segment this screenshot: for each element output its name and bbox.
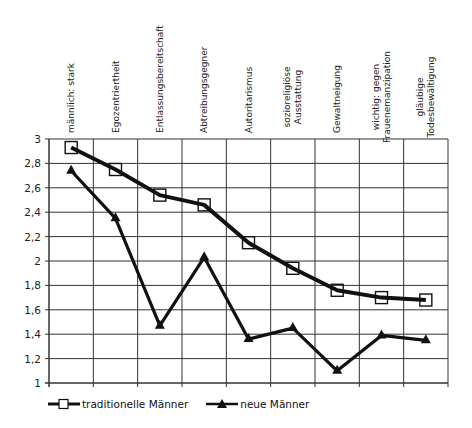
y-tick-label: 2 <box>34 255 41 267</box>
category-label: Frauenemanzipation <box>382 51 392 143</box>
category-label: Ausstattung <box>293 70 303 124</box>
category-label: Egozentriertheit <box>111 60 121 133</box>
category-label: Todesbewältigung <box>426 57 436 139</box>
y-tick-label: 1,2 <box>24 353 41 365</box>
square-marker-icon <box>48 398 80 410</box>
y-tick-label: 2,6 <box>24 182 41 194</box>
data-series <box>65 142 432 374</box>
category-label: Abtreibungsgegner <box>199 46 209 133</box>
y-tick-label: 2,2 <box>24 231 41 243</box>
line-chart: männlich: starkEgozentriertheitEntlassun… <box>0 0 472 428</box>
series-line <box>71 148 426 301</box>
legend: traditionelle Männer neue Männer <box>48 398 309 410</box>
triangle-marker-icon <box>206 398 238 410</box>
triangle-marker-icon <box>66 165 76 174</box>
grid-lines <box>45 139 448 387</box>
y-tick-label: 2,8 <box>24 157 41 169</box>
legend-label: neue Männer <box>240 398 309 410</box>
y-tick-label: 2,4 <box>24 206 41 218</box>
y-tick-label: 1 <box>34 377 41 389</box>
category-label: sozioreligiöse <box>282 66 292 127</box>
legend-item-neue: neue Männer <box>206 398 309 410</box>
category-label: Autoritarismus <box>244 66 254 133</box>
y-tick-label: 1,4 <box>24 328 41 340</box>
category-label: gläubige <box>415 77 425 116</box>
category-label: Entlassungsbereitschaft <box>155 25 165 133</box>
legend-item-traditionelle: traditionelle Männer <box>48 398 188 410</box>
category-label: männlich: stark <box>66 62 76 133</box>
triangle-marker-icon <box>199 251 209 260</box>
y-tick-label: 1,8 <box>24 279 41 291</box>
triangle-marker-icon <box>288 322 298 331</box>
legend-label: traditionelle Männer <box>82 398 188 410</box>
y-tick-label: 1,6 <box>24 304 41 316</box>
category-label: Gewaltneigung <box>332 65 342 133</box>
category-labels: männlich: starkEgozentriertheitEntlassun… <box>66 25 436 143</box>
y-tick-label: 3 <box>34 133 41 145</box>
category-label: wichtig: gegen <box>371 64 381 130</box>
y-axis-ticks: 32,82,62,42,221,81,61,41,21 <box>24 133 41 389</box>
